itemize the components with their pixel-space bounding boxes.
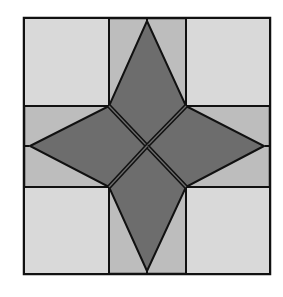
corner-square-top-left [24, 18, 109, 106]
corner-square-bottom-right [186, 187, 270, 274]
corner-square-top-right [186, 18, 270, 106]
corner-square-bottom-left [24, 187, 109, 274]
quilt-star-diagram [0, 0, 283, 297]
